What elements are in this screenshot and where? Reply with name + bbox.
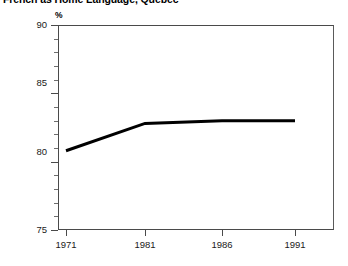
y-minor-tick-83 (54, 121, 58, 122)
x-tick-label-1971: 1971 (36, 240, 96, 250)
page-title: French as Home Language, Quebec (3, 0, 178, 5)
x-tick-label-1981: 1981 (115, 240, 175, 250)
y-axis-unit-label: % (55, 10, 63, 20)
y-tick-85 (51, 93, 58, 94)
x-tick-1971 (66, 230, 67, 236)
plot-area (58, 25, 334, 230)
y-minor-tick-89 (54, 39, 58, 40)
y-minor-tick-87 (54, 66, 58, 67)
y-tick-80 (51, 162, 58, 163)
y-minor-tick-76 (54, 216, 58, 217)
y-tick-75 (51, 230, 58, 231)
y-minor-tick-78 (54, 189, 58, 190)
y-tick-90 (51, 25, 58, 26)
x-tick-1991 (295, 230, 296, 236)
y-minor-tick-77 (54, 203, 58, 204)
x-tick-1981 (145, 230, 146, 236)
y-tick-label-85: 85 (7, 78, 47, 88)
y-tick-label-80: 80 (7, 147, 47, 157)
x-tick-label-1986: 1986 (192, 240, 252, 250)
y-minor-tick-81 (54, 148, 58, 149)
x-tick-label-1991: 1991 (265, 240, 325, 250)
x-tick-1986 (222, 230, 223, 236)
chart-figure: French as Home Language, Quebec % 75 80 … (0, 0, 348, 266)
y-tick-label-90: 90 (7, 20, 47, 30)
y-minor-tick-82 (54, 134, 58, 135)
y-minor-tick-86 (54, 80, 58, 81)
y-minor-tick-79 (54, 175, 58, 176)
y-minor-tick-88 (54, 52, 58, 53)
y-minor-tick-84 (54, 107, 58, 108)
y-tick-label-75: 75 (7, 225, 47, 235)
